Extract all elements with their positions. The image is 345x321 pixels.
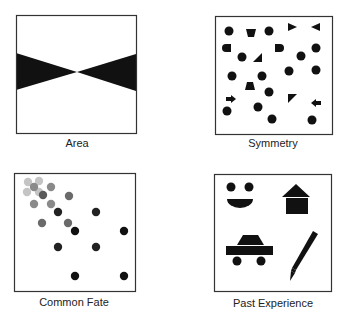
label-area: Area	[65, 137, 88, 149]
symmetry-shape	[312, 66, 321, 75]
symmetry-shape	[253, 53, 262, 62]
area-shape	[16, 53, 77, 90]
symmetry-shape	[258, 72, 267, 81]
symmetry-shape	[226, 95, 236, 103]
symmetry-shape	[254, 103, 263, 112]
symmetry-shape	[246, 29, 256, 37]
symmetry-shape	[288, 23, 297, 31]
symmetry-shape	[288, 94, 297, 103]
common-fate-shape	[38, 219, 46, 227]
common-fate-shape	[39, 191, 47, 199]
symmetry-shape	[228, 72, 237, 81]
symmetry-shape	[265, 27, 274, 36]
past-experience-shape	[286, 198, 308, 214]
past-experience-shape	[227, 183, 236, 192]
label-symmetry: Symmetry	[248, 137, 298, 149]
past-experience-shape	[226, 246, 273, 255]
panel-common-fate	[15, 174, 136, 292]
common-fate-shape	[120, 227, 128, 235]
common-fate-shape	[92, 208, 100, 216]
symmetry-shape	[238, 53, 247, 62]
symmetry-shape	[222, 44, 231, 52]
gestalt-principles-diagram	[0, 0, 345, 321]
symmetry-shape	[311, 99, 321, 107]
past-experience-shape	[257, 257, 266, 266]
common-fate-shape	[30, 200, 38, 208]
common-fate-shape	[23, 188, 31, 196]
symmetry-shape	[223, 107, 232, 116]
past-experience-shape	[233, 257, 242, 266]
symmetry-shape	[265, 88, 274, 97]
past-experience-shape	[227, 199, 253, 208]
symmetry-shape	[225, 27, 234, 36]
common-fate-shape	[71, 272, 79, 280]
past-experience-shape	[292, 231, 318, 270]
symmetry-shape	[297, 52, 306, 61]
symmetry-shape	[312, 44, 321, 53]
symmetry-shape	[275, 44, 284, 52]
common-fate-shape	[120, 272, 128, 280]
symmetry-shape	[308, 116, 317, 125]
common-fate-shape	[64, 219, 72, 227]
symmetry-shape	[245, 82, 255, 90]
area-shape	[77, 54, 136, 91]
label-common-fate: Common Fate	[39, 296, 109, 308]
common-fate-shape	[47, 183, 55, 191]
common-fate-shape	[65, 192, 73, 200]
past-experience-shape	[245, 183, 254, 192]
symmetry-shape	[311, 23, 320, 31]
past-experience-shape	[237, 235, 264, 245]
label-past-experience: Past Experience	[233, 297, 313, 309]
panel-symmetry	[216, 17, 333, 135]
panel-area	[16, 16, 137, 134]
common-fate-shape	[54, 208, 62, 216]
panel-past-experience	[215, 175, 332, 292]
symmetry-shape	[285, 67, 294, 76]
symmetry-shape	[268, 115, 277, 124]
common-fate-shape	[92, 243, 100, 251]
past-experience-shape	[282, 184, 310, 197]
common-fate-shape	[54, 243, 62, 251]
common-fate-shape	[47, 200, 55, 208]
common-fate-shape	[30, 183, 38, 191]
common-fate-shape	[71, 227, 79, 235]
